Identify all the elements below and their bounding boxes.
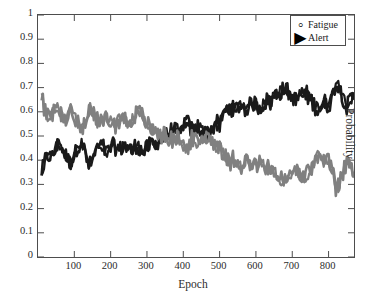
y-tick-label: 0.5	[3, 129, 33, 140]
chart-figure: 00.10.20.30.40.50.60.70.80.91 1002003004…	[0, 0, 386, 301]
y-tick-label: 0.9	[3, 32, 33, 43]
series-fatigue	[42, 81, 354, 176]
y-tick-label: 0	[3, 250, 33, 261]
legend-item-alert: ▶ Alert	[294, 31, 345, 44]
y-tick-label: 0.3	[3, 177, 33, 188]
legend-label-alert: Alert	[308, 32, 329, 43]
x-tick-label: 700	[274, 261, 308, 272]
x-axis-title: Epoch	[0, 278, 386, 290]
x-tick-label: 500	[202, 261, 236, 272]
y-tick-label: 0.1	[3, 226, 33, 237]
series-alert	[42, 93, 354, 196]
x-tick-label: 600	[238, 261, 272, 272]
series-canvas	[38, 15, 354, 257]
chart-legend: ◦ Fatigue ▶ Alert	[290, 15, 346, 46]
x-tick-label: 400	[165, 261, 199, 272]
y-tick-label: 0.2	[3, 202, 33, 213]
y-tick-label: 0.8	[3, 56, 33, 67]
y-tick-label: 0.7	[3, 81, 33, 92]
y-axis-title: Probability	[344, 108, 356, 159]
x-tick-label: 300	[129, 261, 163, 272]
x-tick-label: 100	[56, 261, 90, 272]
y-tick-label: 1	[3, 8, 33, 19]
legend-label-fatigue: Fatigue	[308, 19, 338, 30]
y-tick-label: 0.4	[3, 153, 33, 164]
x-tick-label: 200	[93, 261, 127, 272]
triangle-right-marker-icon: ▶	[294, 28, 307, 47]
plot-area	[37, 14, 355, 258]
y-tick-label: 0.6	[3, 105, 33, 116]
x-tick-label: 800	[311, 261, 345, 272]
